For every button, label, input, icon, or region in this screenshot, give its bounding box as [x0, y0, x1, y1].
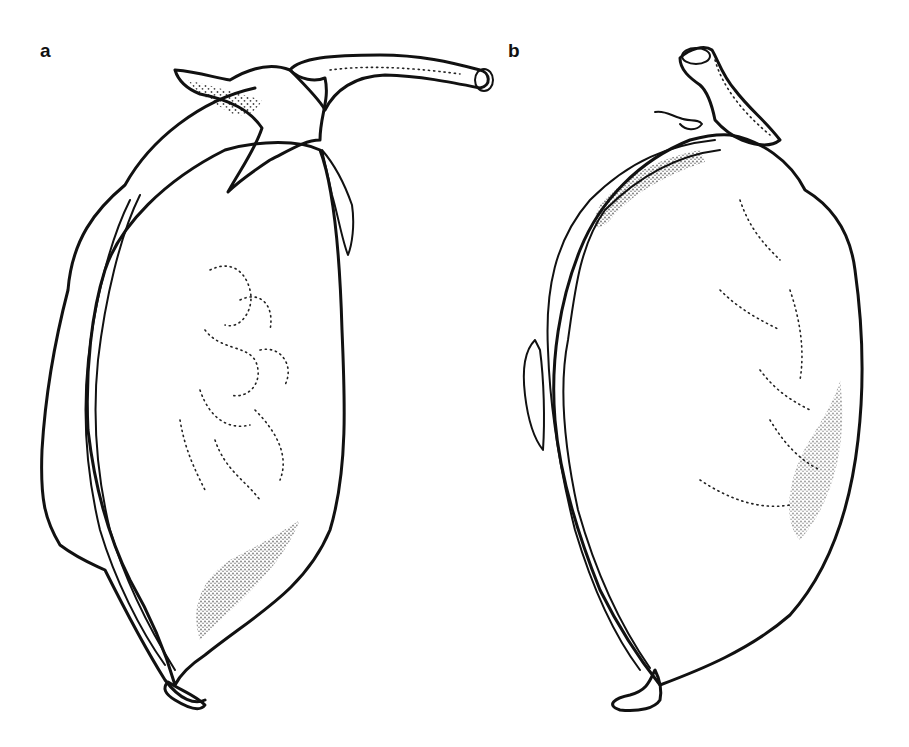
pod-b-pedicel-end	[682, 48, 710, 64]
pod-a-pedicel	[290, 55, 488, 110]
pod-b-side-flap	[524, 340, 544, 450]
pod-b	[524, 48, 862, 711]
pod-b-tendril	[655, 112, 702, 130]
pod-b-pedicel	[680, 48, 780, 145]
pod-b-highlight	[594, 165, 811, 561]
pod-b-beak	[613, 670, 661, 711]
pod-a-highlight	[114, 165, 331, 601]
pod-a	[42, 55, 493, 709]
pod-a-pedicel-stipple	[330, 67, 460, 74]
pod-illustrations	[0, 0, 909, 747]
